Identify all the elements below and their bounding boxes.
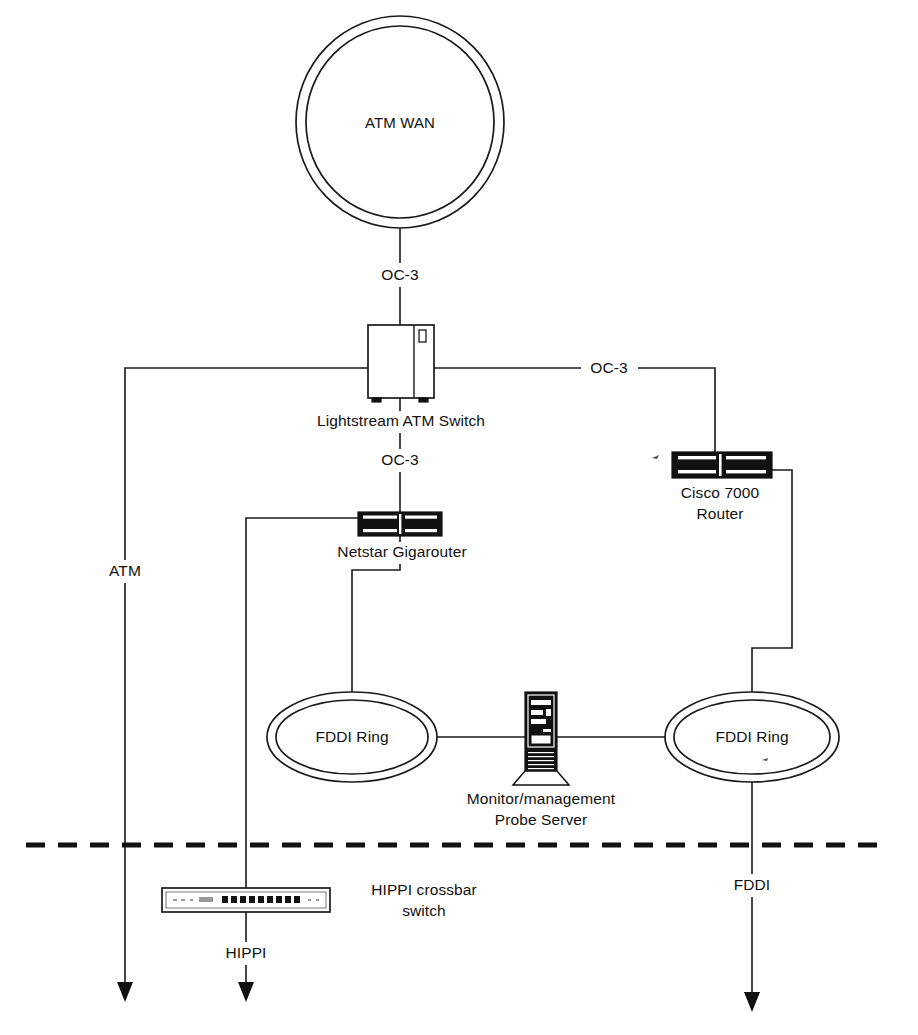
label-hippi-downlink: HIPPI — [214, 942, 278, 965]
oc3-switch-cisco-text: OC-3 — [590, 359, 627, 376]
netstar-slot-bottom-right — [405, 529, 437, 532]
node-probe-server[interactable]: Monitor/management Probe Server — [467, 692, 616, 828]
netstar-slot-bottom-left — [363, 529, 397, 532]
fddi-left-label: FDDI Ring — [315, 728, 388, 745]
probe-server-label-line1: Monitor/management — [467, 790, 616, 807]
scan-speck-cisco — [652, 455, 659, 459]
oc3-switch-netstar-text: OC-3 — [381, 451, 418, 468]
netstar-slot-top-right — [405, 516, 437, 519]
netstar-label: Netstar Gigarouter — [337, 543, 466, 560]
cisco-label-line2: Router — [696, 505, 743, 522]
fddi-right-label: FDDI Ring — [715, 728, 788, 745]
lightstream-label: Lightstream ATM Switch — [317, 412, 485, 429]
probe-server-label-group: Monitor/management Probe Server — [467, 790, 616, 828]
connection-lines — [125, 228, 792, 995]
network-diagram-canvas: ATM WAN OC-3 Lightstream ATM Switch — [0, 0, 918, 1035]
probe-server-front-panel — [531, 735, 551, 744]
hippi-switch-label-line2: switch — [402, 902, 446, 919]
hippi-downlink-text: HIPPI — [226, 944, 267, 961]
atm-downlink-arrowhead — [117, 982, 133, 1002]
cisco-slot-top-left — [678, 456, 716, 459]
label-fddi-downlink: FDDI — [722, 874, 782, 897]
label-oc3-switch-netstar: OC-3 — [372, 449, 429, 472]
lightstream-label-group: Lightstream ATM Switch — [301, 411, 501, 433]
lightstream-foot-left — [372, 398, 381, 402]
netstar-slot-top-left — [363, 516, 397, 519]
probe-server-led — [543, 729, 551, 732]
hippi-switch-label-group: HIPPI crossbar switch — [371, 881, 477, 919]
node-atm-wan[interactable]: ATM WAN — [296, 16, 504, 228]
cisco-slot-bottom-right — [726, 470, 766, 473]
node-fddi-ring-right[interactable]: FDDI Ring — [665, 692, 839, 782]
probe-server-stand — [513, 771, 569, 785]
link-cisco-to-fddi-right — [752, 470, 792, 692]
lightstream-panel-detail — [419, 330, 426, 342]
probe-server-drive-bay-2 — [531, 710, 543, 715]
hippi-downlink-arrowhead — [238, 982, 254, 1002]
oc3-wan-switch-text: OC-3 — [381, 266, 418, 283]
node-cisco-7000-router[interactable]: Cisco 7000 Router — [652, 452, 772, 522]
netstar-label-group: Netstar Gigarouter — [312, 542, 492, 564]
node-netstar-gigarouter[interactable]: Netstar Gigarouter — [312, 512, 492, 564]
link-switch-to-cisco — [430, 368, 715, 452]
network-diagram: ATM WAN OC-3 Lightstream ATM Switch — [0, 0, 918, 1035]
cisco-label-line1: Cisco 7000 — [681, 484, 760, 501]
atm-wan-label: ATM WAN — [365, 114, 435, 131]
hippi-switch-ports — [222, 896, 300, 903]
probe-server-drive-bay-3 — [531, 719, 546, 724]
node-hippi-crossbar-switch[interactable]: HIPPI crossbar switch — [162, 881, 477, 919]
probe-server-label-line2: Probe Server — [495, 811, 588, 828]
probe-server-drive-bay-1 — [531, 700, 551, 705]
fddi-downlink-arrowhead — [744, 992, 760, 1012]
lightstream-foot-right — [419, 398, 428, 402]
cisco-slot-bottom-left — [678, 470, 716, 473]
label-oc3-switch-cisco: OC-3 — [581, 357, 638, 380]
netstar-center-divider — [399, 514, 401, 534]
cisco-label-group: Cisco 7000 Router — [681, 484, 760, 522]
node-fddi-ring-left[interactable]: FDDI Ring — [267, 692, 437, 782]
cisco-chassis-body — [672, 452, 772, 478]
cisco-slot-top-right — [726, 456, 766, 459]
atm-downlink-text: ATM — [109, 562, 141, 579]
cisco-center-divider — [719, 454, 722, 476]
fddi-downlink-text: FDDI — [734, 876, 771, 893]
probe-server-indicator — [546, 709, 551, 716]
node-lightstream-atm-switch[interactable]: Lightstream ATM Switch — [301, 325, 501, 433]
label-oc3-wan-switch: OC-3 — [372, 263, 429, 287]
hippi-switch-label-line1: HIPPI crossbar — [371, 881, 477, 898]
label-atm-downlink: ATM — [96, 560, 154, 583]
